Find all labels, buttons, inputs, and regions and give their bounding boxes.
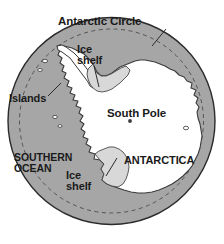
- island-speck-2: [38, 69, 42, 72]
- label-antarctica: ANTARCTICA: [124, 155, 194, 166]
- label-southern-ocean: SOUTHERN OCEAN: [14, 152, 72, 175]
- label-antarctic-circle: Antarctic Circle: [58, 16, 141, 28]
- label-ice-shelf-south: Ice shelf: [66, 170, 91, 193]
- antarctica-map: Antarctic Circle Ice shelf Islands South…: [0, 0, 224, 244]
- map-canvas: [0, 0, 224, 244]
- island-speck-1: [42, 59, 47, 62]
- label-south-pole: South Pole: [107, 108, 166, 120]
- label-islands: Islands: [9, 93, 46, 104]
- island-speck-4: [58, 125, 62, 128]
- label-ice-shelf-north: Ice shelf: [77, 44, 102, 67]
- island-speck-5: [183, 126, 188, 130]
- island-speck-3: [53, 115, 58, 118]
